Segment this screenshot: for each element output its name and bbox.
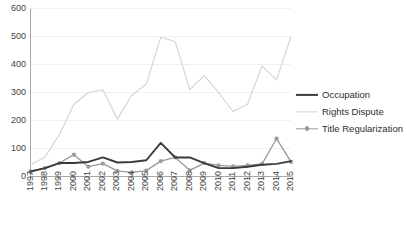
x-axis-tick-label: 2008 [185, 170, 194, 190]
x-axis-tick-label: 2004 [127, 170, 136, 190]
x-axis-tick-label: 2006 [156, 170, 165, 190]
legend-line-occupation-icon [296, 89, 318, 101]
y-axis-tick-label: 300 [0, 88, 26, 97]
legend-line-rights-dispute-icon [296, 106, 318, 118]
y-axis-tick-label: 500 [0, 32, 26, 41]
y-axis-tick-label: 0 [0, 172, 26, 181]
legend: Occupation Rights Dispute Title Regulari… [296, 86, 407, 137]
series-line-rights-dispute [31, 37, 292, 165]
data-point-marker [274, 137, 278, 141]
x-axis-tick-label: 2003 [112, 170, 121, 190]
x-axis-tick-label: 2001 [83, 170, 92, 190]
x-axis-tick-label: 2009 [199, 170, 208, 190]
y-axis-tick-label: 600 [0, 4, 26, 13]
x-axis-tick-label: 1999 [54, 170, 63, 190]
x-axis-tick-label: 2012 [243, 170, 252, 190]
x-axis-tick-label: 2000 [69, 170, 78, 190]
series-layer [28, 37, 293, 175]
legend-marker-circle-icon [305, 126, 310, 131]
legend-item-title-regularization[interactable]: Title Regularization [296, 120, 407, 137]
legend-label-occupation: Occupation [322, 89, 370, 100]
data-point-marker [101, 162, 105, 166]
x-axis-tick-label: 2007 [170, 170, 179, 190]
data-point-marker [72, 153, 76, 157]
line-chart: 6005004003002001000 19971998199920002001… [0, 0, 407, 225]
x-axis-tick-label: 2011 [228, 171, 237, 190]
legend-line-title-regularization-icon [296, 123, 318, 135]
y-axis-tick-label: 100 [0, 144, 26, 153]
legend-item-rights-dispute[interactable]: Rights Dispute [296, 103, 407, 120]
data-point-marker [159, 159, 163, 163]
x-axis-tick-label: 1997 [26, 170, 35, 190]
x-axis-tick-label: 2010 [214, 170, 223, 190]
legend-item-occupation[interactable]: Occupation [296, 86, 407, 103]
x-axis-tick-label: 1998 [40, 170, 49, 190]
y-axis-tick-label: 200 [0, 116, 26, 125]
legend-label-rights-dispute: Rights Dispute [322, 106, 384, 117]
x-axis-tick-label: 2013 [257, 170, 266, 190]
legend-label-title-regularization: Title Regularization [322, 123, 403, 134]
x-axis-tick-label: 2005 [141, 170, 150, 190]
data-point-marker [86, 165, 90, 169]
x-axis-tick-label: 2014 [272, 170, 281, 190]
x-axis-tick-label: 2015 [286, 170, 295, 190]
y-axis-tick-label: 400 [0, 60, 26, 69]
x-axis-tick-label: 2002 [98, 170, 107, 190]
